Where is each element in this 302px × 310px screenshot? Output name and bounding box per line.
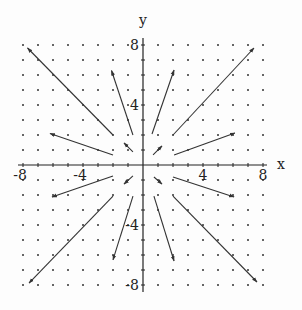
grid-dot: [262, 44, 264, 46]
grid-dot: [202, 134, 204, 136]
grid-dot: [262, 149, 264, 151]
grid-dot: [112, 224, 114, 226]
grid-dot: [187, 179, 189, 181]
grid-dot: [97, 44, 99, 46]
grid-dot: [112, 179, 114, 181]
grid-dot: [247, 149, 249, 151]
grid-dot: [22, 209, 24, 211]
grid-dot: [232, 284, 234, 286]
grid-dot: [127, 239, 129, 241]
grid-dot: [97, 194, 99, 196]
grid-dot: [172, 179, 174, 181]
grid-dot: [262, 74, 264, 76]
grid-dot: [172, 224, 174, 226]
grid-dot: [22, 254, 24, 256]
grid-dot: [217, 194, 219, 196]
grid-dot: [22, 269, 24, 271]
grid-dot: [172, 119, 174, 121]
grid-dot: [247, 104, 249, 106]
grid-dot: [202, 89, 204, 91]
grid-dot: [82, 254, 84, 256]
grid-dot: [82, 194, 84, 196]
x-tick-label: -8: [13, 167, 27, 183]
grid-dot: [37, 194, 39, 196]
grid-dot: [112, 89, 114, 91]
grid-dot: [82, 134, 84, 136]
grid-dot: [217, 284, 219, 286]
grid-dot: [187, 89, 189, 91]
grid-dot: [232, 44, 234, 46]
grid-dot: [232, 254, 234, 256]
grid-dot: [157, 104, 159, 106]
grid-dot: [37, 254, 39, 256]
grid-dot: [67, 284, 69, 286]
grid-dot: [127, 149, 129, 151]
grid-dot: [187, 74, 189, 76]
grid-dot: [22, 149, 24, 151]
grid-dot: [157, 44, 159, 46]
grid-dot: [202, 284, 204, 286]
grid-dot: [262, 134, 264, 136]
grid-dot: [217, 179, 219, 181]
grid-dot: [112, 254, 114, 256]
grid-dot: [232, 59, 234, 61]
grid-dot: [97, 104, 99, 106]
grid-dot: [172, 59, 174, 61]
grid-dot: [157, 194, 159, 196]
grid-dot: [52, 119, 54, 121]
grid-dot: [262, 284, 264, 286]
grid-dot: [187, 194, 189, 196]
grid-dot: [37, 89, 39, 91]
grid-dot: [157, 224, 159, 226]
grid-dot: [37, 284, 39, 286]
grid-dot: [97, 269, 99, 271]
grid-dot: [172, 239, 174, 241]
vector-arrow: [174, 133, 235, 155]
x-tick-label: 8: [259, 167, 268, 183]
grid-dot: [187, 104, 189, 106]
grid-dot: [67, 209, 69, 211]
grid-dot: [157, 284, 159, 286]
grid-dot: [217, 254, 219, 256]
grid-dot: [82, 284, 84, 286]
grid-dot: [52, 239, 54, 241]
y-tick-label: 4: [130, 97, 139, 113]
grid-dot: [247, 179, 249, 181]
vector-arrow: [152, 70, 174, 134]
grid-dot: [22, 224, 24, 226]
grid-dot: [82, 119, 84, 121]
grid-dot: [262, 104, 264, 106]
grid-dot: [82, 269, 84, 271]
grid-dot: [232, 149, 234, 151]
grid-dot: [232, 104, 234, 106]
vector-arrow: [29, 196, 113, 283]
grid-dot: [52, 44, 54, 46]
grid-dot: [22, 74, 24, 76]
grid-dot: [52, 194, 54, 196]
grid-dot: [52, 89, 54, 91]
grid-dot: [37, 269, 39, 271]
grid-dot: [67, 119, 69, 121]
vector-field-plot: -8-448-8-448xy: [0, 0, 302, 310]
grid-dot: [172, 89, 174, 91]
grid-dot: [37, 179, 39, 181]
grid-dot: [172, 269, 174, 271]
grid-dot: [52, 224, 54, 226]
grid-dot: [247, 269, 249, 271]
grid-dot: [97, 224, 99, 226]
grid-dot: [52, 179, 54, 181]
x-tick-label: -4: [73, 167, 87, 183]
grid-dot: [52, 254, 54, 256]
grid-dot: [217, 269, 219, 271]
grid-dot: [37, 224, 39, 226]
vector-arrow: [28, 48, 114, 135]
grid-dot: [37, 149, 39, 151]
grid-dot: [22, 239, 24, 241]
grid-dot: [127, 44, 129, 46]
grid-dot: [67, 44, 69, 46]
grid-dot: [202, 149, 204, 151]
grid-dot: [187, 59, 189, 61]
grid-dot: [262, 254, 264, 256]
grid-dot: [247, 134, 249, 136]
grid-dot: [127, 134, 129, 136]
